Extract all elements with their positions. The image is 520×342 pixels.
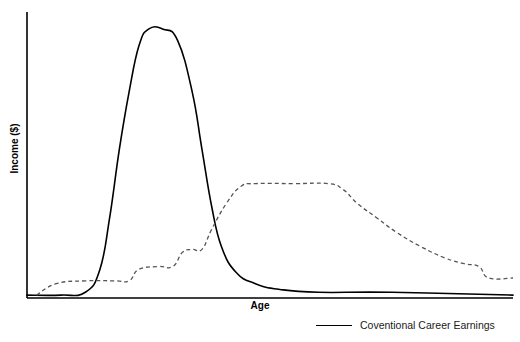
series-line-conventional-career-earnings bbox=[27, 27, 513, 296]
x-axis-label: Age bbox=[0, 300, 520, 311]
series-line-alternative-earnings bbox=[37, 183, 513, 295]
legend-label: Coventional Career Earnings bbox=[360, 319, 495, 331]
chart-container: Income ($) Age Coventional Career Earnin… bbox=[0, 0, 520, 342]
chart-legend: Coventional Career Earnings bbox=[316, 319, 495, 331]
legend-swatch-solid-line bbox=[316, 325, 352, 326]
y-axis-label: Income ($) bbox=[9, 119, 20, 179]
chart-plot-area bbox=[0, 0, 520, 342]
